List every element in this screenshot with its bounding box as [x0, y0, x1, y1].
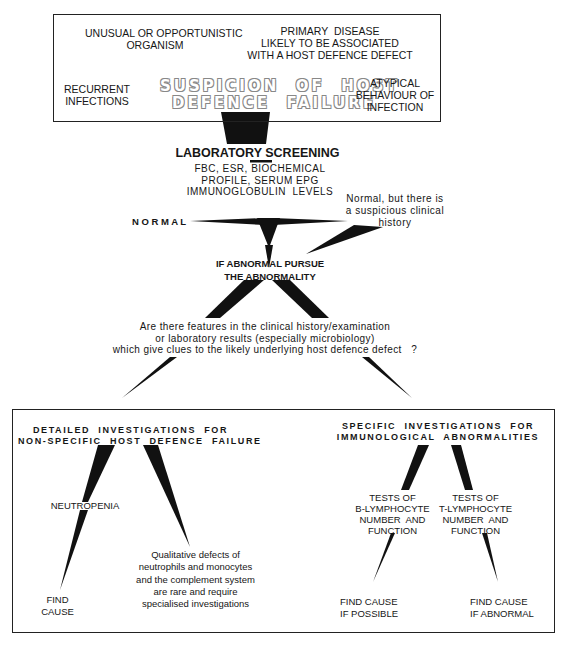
connector-question-to-nonspecific	[122, 357, 177, 398]
unusual-organism-text: UNUSUAL OR OPPORTUNISTIC ORGANISM	[85, 27, 225, 51]
recurrent-infections-text: RECURRENT INFECTIONS	[62, 83, 132, 107]
t-lymphocyte-tests: TESTS OF T-LYMPHOCYTE NUMBER AND FUNCTIO…	[433, 492, 518, 536]
neutropenia-label: NEUTROPENIA	[50, 500, 120, 512]
find-cause-possible-label: FIND CAUSE IF POSSIBLE	[340, 596, 405, 620]
suspicion-title-line2: DEFENCE FAILURE	[172, 94, 332, 113]
atypical-behaviour-text: ATYPICAL BEHAVIOUR OF INFECTION	[355, 77, 435, 113]
qualitative-defects-text: Qualitative defects of neutrophils and m…	[128, 549, 263, 610]
b-lymphocyte-tests: TESTS OF B-LYMPHOCYTE NUMBER AND FUNCTIO…	[350, 492, 435, 536]
nonspecific-title: DETAILED INVESTIGATIONS FOR NON-SPECIFIC…	[18, 425, 243, 447]
connector-question-to-immunological	[362, 357, 412, 398]
normal-label: N O R M A L	[128, 216, 190, 228]
connector-to-normal	[190, 218, 265, 225]
find-cause-label: FIND CAUSE	[35, 594, 80, 618]
immunological-title: SPECIFIC INVESTIGATIONS FOR IMMUNOLOGICA…	[328, 421, 548, 443]
if-abnormal-text: IF ABNORMAL PURSUE THE ABNORMALITY	[205, 258, 335, 283]
primary-disease-text: PRIMARY DISEASE LIKELY TO BE ASSOCIATED …	[245, 25, 415, 61]
clinical-question-text: Are there features in the clinical histo…	[95, 321, 435, 356]
lab-screening-title: LABORATORY SCREENING	[170, 146, 345, 160]
connector-suspicious-to-abnormal	[306, 225, 383, 254]
lab-screening-details: FBC, ESR, BIOCHEMICAL PROFILE, SERUM EPG…	[185, 163, 335, 198]
normal-suspicious-text: Normal, but there is a suspicious clinic…	[335, 193, 455, 229]
connector-abnormal-to-question-left	[205, 280, 264, 318]
find-cause-abnormal-label: FIND CAUSE IF ABNORMAL	[470, 596, 535, 620]
connector-abnormal-to-question-right	[272, 280, 329, 318]
